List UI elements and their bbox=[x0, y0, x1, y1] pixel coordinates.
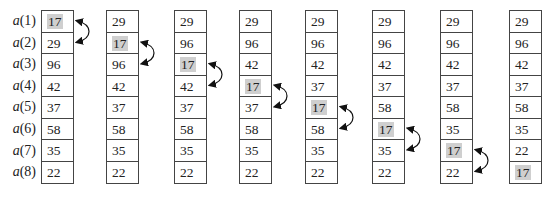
array-cell: 58 bbox=[175, 119, 206, 141]
array-cell: 17 bbox=[306, 97, 337, 119]
row-label: a(3) bbox=[0, 53, 40, 75]
array-cell: 58 bbox=[510, 97, 541, 119]
row-label: a(2) bbox=[0, 32, 40, 54]
swap-arrow-icon bbox=[77, 21, 89, 43]
array-cell: 96 bbox=[373, 33, 404, 55]
array-cell: 22 bbox=[42, 162, 73, 184]
array-cell: 37 bbox=[306, 76, 337, 98]
array-cell: 96 bbox=[306, 33, 337, 55]
array-cell: 37 bbox=[510, 76, 541, 98]
array-column: 1729964237583522 bbox=[41, 10, 74, 184]
array-cell: 17 bbox=[42, 11, 73, 33]
array-cell: 22 bbox=[373, 162, 404, 184]
array-cell: 58 bbox=[306, 119, 337, 141]
row-label: a(7) bbox=[0, 140, 40, 162]
array-cell: 29 bbox=[510, 11, 541, 33]
array-cell: 37 bbox=[107, 97, 138, 119]
array-cell: 29 bbox=[42, 33, 73, 55]
array-cell: 42 bbox=[510, 54, 541, 76]
array-cell: 58 bbox=[373, 97, 404, 119]
array-cell: 35 bbox=[42, 140, 73, 162]
array-cell: 58 bbox=[42, 119, 73, 141]
array-cell: 35 bbox=[175, 140, 206, 162]
swap-arrow-icon bbox=[341, 107, 353, 129]
array-cell: 42 bbox=[441, 54, 472, 76]
swap-arrow-icon bbox=[408, 128, 420, 150]
array-column: 2996423758351722 bbox=[440, 10, 473, 184]
array-cell: 22 bbox=[441, 162, 472, 184]
array-cell: 96 bbox=[240, 33, 271, 55]
array-cell: 22 bbox=[175, 162, 206, 184]
row-labels: a(1) a(2) a(3) a(4) a(5) a(6) a(7) a(8) bbox=[0, 10, 40, 183]
array-cell: 22 bbox=[306, 162, 337, 184]
array-cell: 22 bbox=[510, 140, 541, 162]
array-cell: 35 bbox=[510, 119, 541, 141]
row-label: a(5) bbox=[0, 96, 40, 118]
array-cell: 37 bbox=[240, 97, 271, 119]
array-cell: 42 bbox=[107, 76, 138, 98]
array-cell: 35 bbox=[306, 140, 337, 162]
array-cell: 42 bbox=[42, 76, 73, 98]
array-cell: 42 bbox=[175, 76, 206, 98]
array-cell: 42 bbox=[306, 54, 337, 76]
array-cell: 37 bbox=[373, 76, 404, 98]
array-cell: 35 bbox=[107, 140, 138, 162]
array-cell: 58 bbox=[240, 119, 271, 141]
array-cell: 29 bbox=[441, 11, 472, 33]
array-cell: 58 bbox=[441, 97, 472, 119]
array-column: 2996423758352217 bbox=[509, 10, 542, 184]
array-column: 2996174237583522 bbox=[174, 10, 207, 184]
array-cell: 22 bbox=[107, 162, 138, 184]
array-column: 2996421737583522 bbox=[239, 10, 272, 184]
array-column: 2917964237583522 bbox=[106, 10, 139, 184]
array-cell: 96 bbox=[175, 33, 206, 55]
array-cell: 29 bbox=[373, 11, 404, 33]
array-cell: 17 bbox=[373, 119, 404, 141]
array-cell: 96 bbox=[510, 33, 541, 55]
row-label: a(4) bbox=[0, 75, 40, 97]
swap-arrow-icon bbox=[210, 64, 222, 86]
array-cell: 35 bbox=[240, 140, 271, 162]
array-cell: 29 bbox=[306, 11, 337, 33]
array-cell: 42 bbox=[373, 54, 404, 76]
array-cell: 29 bbox=[240, 11, 271, 33]
array-cell: 17 bbox=[175, 54, 206, 76]
array-cell: 37 bbox=[441, 76, 472, 98]
array-cell: 96 bbox=[107, 54, 138, 76]
array-cell: 17 bbox=[107, 33, 138, 55]
array-cell: 96 bbox=[441, 33, 472, 55]
array-cell: 17 bbox=[240, 76, 271, 98]
swap-arrow-icon bbox=[476, 150, 488, 172]
array-cell: 29 bbox=[175, 11, 206, 33]
array-cell: 37 bbox=[42, 97, 73, 119]
swap-arrow-icon bbox=[275, 85, 287, 107]
row-label: a(8) bbox=[0, 161, 40, 183]
row-label: a(6) bbox=[0, 118, 40, 140]
array-cell: 42 bbox=[240, 54, 271, 76]
array-column: 2996423758173522 bbox=[372, 10, 405, 184]
array-cell: 22 bbox=[240, 162, 271, 184]
array-cell: 29 bbox=[107, 11, 138, 33]
row-label: a(1) bbox=[0, 10, 40, 32]
array-cell: 96 bbox=[42, 54, 73, 76]
swap-arrow-icon bbox=[142, 42, 154, 64]
array-cell: 35 bbox=[441, 119, 472, 141]
array-cell: 17 bbox=[510, 162, 541, 184]
array-cell: 37 bbox=[175, 97, 206, 119]
array-cell: 17 bbox=[441, 140, 472, 162]
array-cell: 35 bbox=[373, 140, 404, 162]
array-cell: 58 bbox=[107, 119, 138, 141]
array-column: 2996423717583522 bbox=[305, 10, 338, 184]
